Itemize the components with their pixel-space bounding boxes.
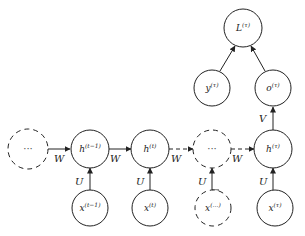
label-w-3: W (171, 153, 182, 164)
label-v: V (259, 113, 268, 124)
svg-text:···: ··· (23, 143, 33, 154)
label-w-1: W (54, 153, 65, 164)
node-h-t-minus-1: h(t−1) (71, 130, 109, 168)
label-u-1: U (75, 176, 84, 187)
label-u-3: U (198, 176, 207, 187)
label-w-2: W (110, 153, 121, 164)
node-x-dots: x(…) (195, 190, 231, 226)
svg-text:···: ··· (207, 143, 217, 154)
label-w-4: W (232, 153, 243, 164)
label-u-2: U (136, 176, 145, 187)
node-x-t: x(t) (132, 190, 168, 226)
node-h-dots: ··· (193, 130, 231, 168)
node-o-tau: o(τ) (255, 70, 291, 106)
node-h-tau: h(τ) (254, 130, 292, 168)
edge-u-3 (212, 168, 219, 190)
node-y-tau: y(τ) (194, 70, 230, 106)
edge-y-to-L (220, 46, 235, 71)
edge-o-to-L (251, 46, 265, 71)
node-h-prev-dots: ··· (8, 129, 48, 169)
node-h-t: h(t) (131, 130, 169, 168)
node-L-tau: L(τ) (224, 9, 262, 47)
node-x-t-minus-1: x(t−1) (72, 190, 108, 226)
node-x-tau: x(τ) (257, 190, 293, 226)
rnn-diagram: ··· h(t−1) h(t) ··· h(τ) x(t−1) x(t) x(…… (0, 0, 305, 236)
label-u-4: U (259, 176, 268, 187)
